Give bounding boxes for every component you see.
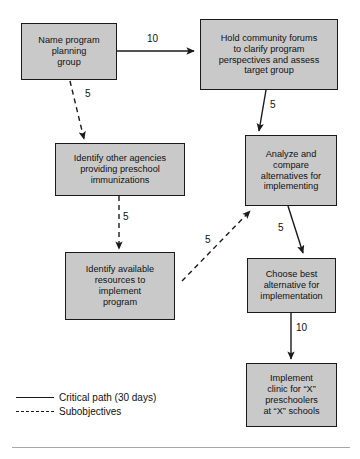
edge-label-resources-to-analyze: 5 (205, 234, 211, 245)
legend: Critical path (30 days) Subobjectives (16, 390, 156, 418)
dashed-line-icon (16, 406, 54, 416)
footer-divider (12, 447, 350, 448)
legend-item-critical-path: Critical path (30 days) (16, 390, 156, 404)
node-analyze-and-compare-alternatives[interactable]: Analyze and compare alternatives for imp… (245, 135, 337, 206)
legend-item-subobjectives: Subobjectives (16, 404, 156, 418)
node-identify-other-agencies[interactable]: Identify other agencies providing presch… (55, 143, 185, 196)
edge-label-forums-to-analyze: 5 (270, 99, 276, 110)
solid-line-icon (16, 392, 54, 402)
edge-label-group-to-agencies: 5 (85, 88, 91, 99)
legend-label-critical-path: Critical path (30 days) (59, 392, 156, 403)
connector-analyze-to-choose (288, 206, 303, 253)
legend-label-subobjectives: Subobjectives (59, 406, 121, 417)
edge-label-choose-to-implement: 10 (296, 322, 307, 333)
edge-label-agencies-to-resources: 5 (123, 211, 129, 222)
node-hold-community-forums[interactable]: Hold community forums to clarify program… (200, 19, 338, 90)
node-implement-clinic[interactable]: Implement clinic for “X” preschoolers at… (246, 363, 337, 427)
flowchart-canvas: Name program planning group Hold communi… (0, 0, 360, 459)
edge-label-group-to-forums: 10 (147, 33, 158, 44)
node-choose-best-alternative[interactable]: Choose best alternative for implementati… (247, 258, 336, 313)
edge-label-analyze-to-choose: 5 (278, 222, 284, 233)
connector-resources-to-analyze (182, 211, 250, 281)
node-identify-available-resources[interactable]: Identify available resources to implemen… (65, 252, 175, 320)
node-name-program-planning-group[interactable]: Name program planning group (21, 23, 117, 80)
connector-group-to-agencies (70, 81, 84, 139)
connector-forums-to-analyze (259, 90, 266, 131)
